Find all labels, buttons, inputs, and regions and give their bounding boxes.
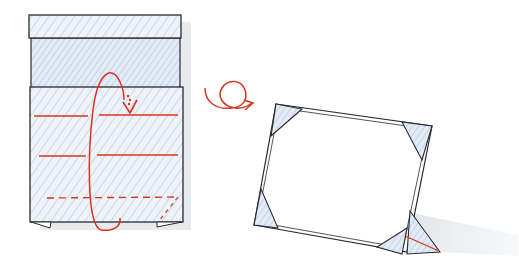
turn-over-loop-icon <box>205 81 252 108</box>
middle-section <box>31 38 180 88</box>
fold-step <box>29 15 191 230</box>
result-frame <box>254 104 518 256</box>
dot <box>127 95 129 97</box>
diagram-svg <box>0 0 519 273</box>
origami-diagram <box>0 0 519 273</box>
top-strip <box>29 15 181 38</box>
turn-over-symbol <box>205 81 253 110</box>
dot <box>128 103 130 105</box>
dot <box>129 99 131 101</box>
